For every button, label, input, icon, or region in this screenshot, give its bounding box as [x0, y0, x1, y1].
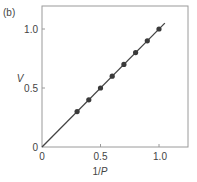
x-tick-label: 0	[39, 151, 45, 162]
data-point	[86, 97, 91, 102]
data-point	[110, 74, 115, 79]
x-axis-label: 1/P	[92, 166, 107, 177]
y-tick-label: 0	[32, 142, 38, 153]
y-tick-label: 0.5	[24, 83, 38, 94]
panel-label: (b)	[3, 7, 15, 18]
x-tick-label: 1.0	[153, 151, 167, 162]
data-point	[75, 109, 80, 114]
data-point	[98, 85, 103, 90]
x-tick-label: 0.5	[94, 151, 108, 162]
data-point	[133, 50, 138, 55]
plot-frame	[42, 6, 188, 147]
y-tick-label: 1.0	[24, 24, 38, 35]
data-point	[121, 62, 126, 67]
data-point	[145, 38, 150, 43]
chart: (b) 0 0.5 1.0 0 0.5 1.0 V 1/P	[0, 0, 197, 182]
data-point	[156, 26, 161, 31]
